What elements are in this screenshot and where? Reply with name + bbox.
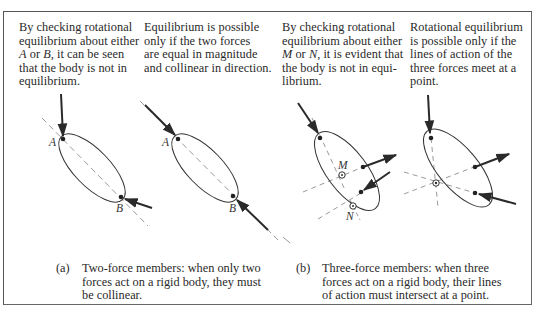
- label-A: A: [48, 136, 57, 148]
- rigid-body-ellipse: [161, 124, 248, 212]
- line-of-action-dashed: [404, 167, 474, 194]
- force-arrow-B: [237, 200, 268, 230]
- caption-line: forces act on a rigid body, they must: [82, 276, 286, 290]
- point-N-center: [352, 205, 354, 207]
- line-of-action-dashed: [303, 167, 363, 192]
- force-arrow-1: [298, 103, 318, 133]
- force-arrow-3: [364, 172, 390, 190]
- caption-two-force-members: (a) Two-force members: when only two for…: [56, 262, 286, 303]
- line-of-action-dashed: [431, 138, 438, 207]
- caption-three-force-members: (b) Three-force members: when three forc…: [296, 262, 531, 303]
- diagram-three-force-concurrent: [404, 95, 516, 218]
- caption-line: forces act on a rigid body, their lines: [322, 276, 531, 290]
- rigid-body-ellipse: [303, 121, 392, 220]
- force-point-dot: [359, 190, 364, 195]
- diagram-three-force-not-concurrent: M N: [283, 103, 396, 243]
- label-N: N: [345, 210, 355, 222]
- force-arrow-A: [145, 105, 175, 135]
- force-point-dot: [473, 165, 478, 170]
- point-A-dot: [176, 137, 181, 142]
- label-B: B: [116, 202, 123, 214]
- point-B-dot: [119, 195, 124, 200]
- point-A-dot: [61, 137, 66, 142]
- caption-line: Three-force members: when three: [322, 262, 531, 276]
- concurrency-point-center: [435, 182, 437, 184]
- caption-line: of action must intersect at a point.: [322, 289, 531, 303]
- force-point-dot: [361, 165, 366, 170]
- force-arrow-A: [61, 94, 63, 136]
- force-arrow-1: [428, 95, 430, 133]
- rigid-body-ellipse: [48, 124, 135, 212]
- caption-label-a: (a): [56, 262, 70, 276]
- caption-line: be collinear.: [82, 289, 286, 303]
- line-of-action-dashed: [42, 118, 148, 226]
- line-of-action-dashed: [283, 237, 290, 243]
- caption-label-b: (b): [296, 262, 310, 276]
- force-arrow-2: [475, 154, 509, 167]
- force-arrow-3: [479, 194, 516, 204]
- diagram-two-force-collinear: A B: [140, 101, 278, 240]
- diagram-two-force-not-collinear: A B: [42, 94, 152, 226]
- force-point-dot: [429, 136, 434, 141]
- caption-line: Two-force members: when only two: [82, 262, 286, 276]
- force-point-dot: [473, 191, 478, 196]
- label-A: A: [161, 136, 170, 148]
- label-B: B: [229, 202, 236, 214]
- point-M-center: [341, 174, 343, 176]
- force-arrow-2: [363, 155, 396, 167]
- point-B-dot: [231, 194, 236, 199]
- rigid-body-ellipse: [412, 118, 504, 217]
- label-M: M: [337, 159, 349, 171]
- force-point-dot: [318, 136, 323, 141]
